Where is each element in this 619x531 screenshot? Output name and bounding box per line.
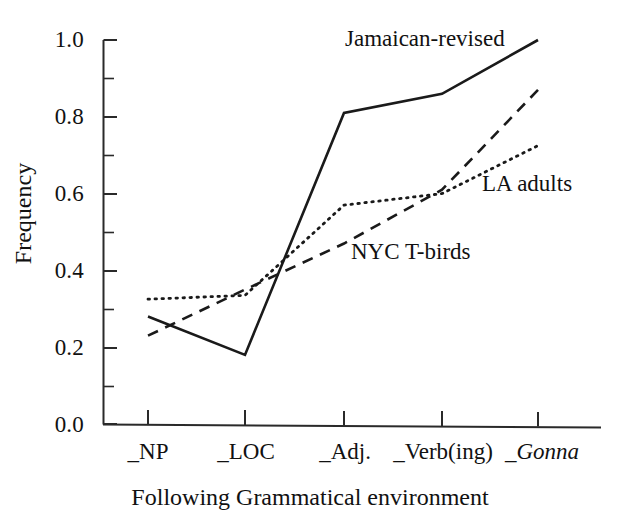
- x-tick-label-np: _NP: [108, 440, 188, 463]
- x-tick-label-adj: _Adj.: [303, 440, 387, 463]
- series-line-nyc-tbirds: [148, 90, 538, 336]
- line-chart-figure: 1.0 0.8 0.6 0.4 0.2 0.0 _NP _LOC _Adj. _…: [0, 0, 619, 531]
- axis-lines: [103, 40, 601, 428]
- x-axis-title: Following Grammatical environment: [90, 484, 530, 511]
- y-axis-title: Frequency: [10, 134, 37, 294]
- x-tick-gonna-prefix: _: [505, 439, 517, 464]
- annotation-la-adults: LA adults: [482, 172, 572, 195]
- x-axis-ticks: [148, 410, 538, 427]
- y-tick-label-0.0: 0.0: [22, 413, 84, 436]
- x-tick-gonna-italic: Gonna: [516, 439, 579, 464]
- y-tick-label-0.2: 0.2: [22, 336, 84, 359]
- x-tick-label-gonna: _Gonna: [487, 440, 597, 463]
- annotation-nyc-tbirds: NYC T-birds: [351, 240, 471, 263]
- series-line-la-adults: [148, 146, 538, 300]
- x-axis-line: [103, 425, 601, 428]
- annotation-jamaican-revised: Jamaican-revised: [345, 27, 505, 50]
- y-tick-label-0.8: 0.8: [22, 105, 84, 128]
- y-tick-label-1.0: 1.0: [22, 28, 84, 51]
- y-axis-minor-ticks: [104, 79, 115, 387]
- x-tick-label-loc: _LOC: [202, 440, 290, 463]
